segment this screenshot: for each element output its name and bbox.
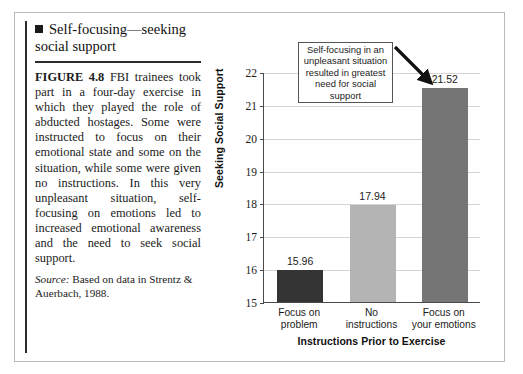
- figure-heading-text: Self-focusing—seeking social support: [35, 21, 186, 54]
- y-axis-tick: [260, 172, 264, 173]
- plot-area: 151617181920212215.9617.9421.52: [263, 73, 480, 303]
- figure-number-label: FIGURE 4.8: [35, 70, 104, 84]
- figure-caption-body: FIGURE 4.8 FBI trainees took part in a f…: [35, 70, 207, 266]
- y-axis-title: Seeking Social Support: [213, 69, 225, 188]
- y-axis-tick-label: 20: [246, 133, 258, 145]
- callout-box: Self-focusing in an unpleasant situation…: [298, 42, 393, 103]
- x-axis-tick-label: Noinstructions: [335, 307, 407, 331]
- caption-divider: [35, 61, 201, 63]
- bar-value-label: 17.94: [359, 190, 385, 202]
- y-axis-tick-label: 19: [246, 166, 258, 178]
- y-axis-tick: [260, 106, 264, 107]
- y-axis-tick: [260, 73, 264, 74]
- figure-source-note: Source: Based on data in Strentz & Auerb…: [35, 273, 207, 300]
- bar: 21.52: [422, 88, 468, 302]
- filled-square-bullet-icon: [35, 25, 43, 33]
- bar-value-label: 15.96: [287, 255, 313, 267]
- y-axis-tick-label: 17: [246, 231, 258, 243]
- y-axis-tick: [260, 303, 264, 304]
- arrow-down-right-icon: [391, 43, 443, 95]
- y-axis-tick: [260, 204, 264, 205]
- bar: 17.94: [350, 205, 396, 302]
- callout-text: Self-focusing in an unpleasant situation…: [299, 44, 392, 101]
- y-axis-tick-label: 16: [246, 264, 258, 276]
- y-axis-tick-label: 22: [246, 67, 258, 79]
- x-axis-tick-label-line: Focus on: [408, 307, 480, 319]
- x-axis-title: Instructions Prior to Exercise: [263, 335, 480, 347]
- figure-caption-column: Self-focusing—seeking social support FIG…: [25, 21, 207, 353]
- x-axis-tick-label-line: No: [335, 307, 407, 319]
- figure-caption-text: FBI trainees took part in a four-day exe…: [35, 70, 201, 265]
- y-axis-tick-label: 21: [246, 100, 258, 112]
- y-axis-tick: [260, 139, 264, 140]
- y-axis-tick-label: 15: [246, 297, 258, 309]
- bar: 15.96: [277, 270, 323, 302]
- y-axis-tick: [260, 270, 264, 271]
- x-axis-tick-label: Focus onproblem: [263, 307, 335, 331]
- y-axis-tick-label: 18: [246, 198, 258, 210]
- figure-frame: Self-focusing—seeking social support FIG…: [14, 12, 505, 362]
- x-axis-tick-label-line: your emotions: [408, 319, 480, 331]
- figure-heading: Self-focusing—seeking social support: [35, 21, 207, 55]
- source-label: Source:: [35, 273, 69, 285]
- x-axis-tick-label-line: instructions: [335, 319, 407, 331]
- x-axis-tick-label-line: Focus on: [263, 307, 335, 319]
- bar-chart: Seeking Social Support 15161718192021221…: [211, 21, 501, 355]
- x-axis-tick-label-line: problem: [263, 319, 335, 331]
- y-axis-tick: [260, 237, 264, 238]
- x-axis-tick-label: Focus onyour emotions: [408, 307, 480, 331]
